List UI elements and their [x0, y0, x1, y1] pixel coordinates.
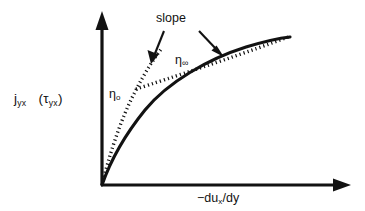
x-axis-label: −dux/dy	[197, 192, 239, 205]
flow-curve-figure: jyx(τyx) −dux/dy slope η∞ ηo	[0, 0, 365, 211]
x-axis-arrowhead-icon	[333, 179, 351, 192]
y-axis-label-tau-subscript: yx	[49, 98, 58, 108]
x-axis-label-prefix: −du	[197, 191, 218, 205]
slope-annotation-label: slope	[156, 12, 186, 25]
eta-zero-label: ηo	[109, 88, 121, 101]
slope-arrow-left-shaft	[154, 31, 164, 56]
slope-arrow-left	[148, 31, 165, 64]
eta-zero-subscript: o	[116, 93, 121, 102]
slope-arrow-right-shaft	[199, 31, 217, 50]
eta-infinity-symbol: η	[175, 53, 182, 67]
x-axis	[101, 179, 351, 192]
slope-arrow-left-head-icon	[148, 50, 159, 64]
eta-infinity-label: η∞	[175, 54, 189, 67]
y-axis	[96, 11, 109, 185]
y-axis-label-paren-close: )	[58, 91, 63, 106]
y-axis-label-tau: τ	[43, 91, 49, 106]
eta-zero-symbol: η	[109, 87, 116, 101]
y-axis-label-symbol-subscript: yx	[17, 98, 26, 108]
flow-curve-path	[102, 37, 290, 185]
y-axis-arrowhead-icon	[96, 11, 109, 30]
x-axis-label-suffix: /dy	[223, 191, 240, 205]
slope-arrow-right	[199, 31, 224, 57]
eta-infinity-subscript: ∞	[182, 58, 189, 68]
y-axis-label: jyx(τyx)	[14, 92, 63, 106]
x-axis-label-subscript: x	[218, 197, 222, 206]
